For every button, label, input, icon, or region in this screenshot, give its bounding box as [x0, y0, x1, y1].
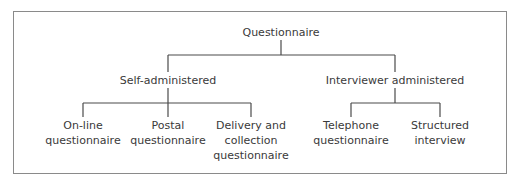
node-label-line: Telephone — [313, 118, 388, 133]
node-postal-questionnaire: Postal questionnaire — [130, 118, 205, 148]
node-interviewer-administered: Interviewer administered — [326, 73, 464, 88]
node-structured-interview: Structured interview — [411, 118, 469, 148]
node-label: Interviewer administered — [326, 73, 464, 88]
node-label-line: questionnaire — [45, 133, 120, 148]
node-questionnaire: Questionnaire — [242, 25, 319, 40]
node-label-line: questionnaire — [213, 148, 288, 163]
node-label-line: questionnaire — [130, 133, 205, 148]
node-label-line: collection — [213, 133, 288, 148]
node-label-line: On-line — [45, 118, 120, 133]
node-label: Self-administered — [120, 73, 216, 88]
node-label-line: Postal — [130, 118, 205, 133]
node-label-line: Delivery and — [213, 118, 288, 133]
node-label-line: Structured — [411, 118, 469, 133]
node-label-line: interview — [411, 133, 469, 148]
node-label-line: questionnaire — [313, 133, 388, 148]
node-self-administered: Self-administered — [120, 73, 216, 88]
node-online-questionnaire: On-line questionnaire — [45, 118, 120, 148]
node-delivery-collection-questionnaire: Delivery and collection questionnaire — [213, 118, 288, 163]
node-label: Questionnaire — [242, 25, 319, 40]
node-telephone-questionnaire: Telephone questionnaire — [313, 118, 388, 148]
